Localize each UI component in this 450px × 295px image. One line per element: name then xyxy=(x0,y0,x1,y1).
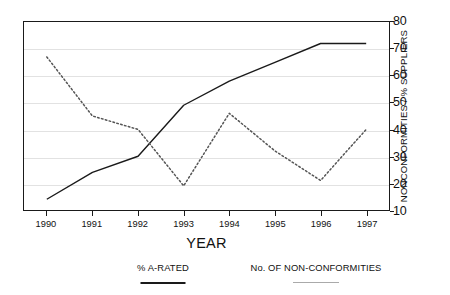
series-layer xyxy=(24,22,389,210)
dotted-line-icon xyxy=(294,282,339,283)
solid-line-icon xyxy=(141,282,186,284)
y-axis-title-label: NONCONFORMITIES / % SUPPLIERS xyxy=(398,18,409,214)
x-tick-mark xyxy=(184,211,185,216)
x-axis-title: YEAR xyxy=(23,235,390,251)
x-tick-mark xyxy=(229,211,230,216)
x-tick-label: 1996 xyxy=(301,219,341,229)
x-tick-label: 1995 xyxy=(255,219,295,229)
x-tick-mark xyxy=(367,211,368,216)
series-line-a-rated xyxy=(47,43,366,199)
x-tick-label: 1993 xyxy=(164,219,204,229)
legend-swatch-dotted xyxy=(200,282,432,285)
legend-entry-non-conformities: No. OF NON-CONFORMITIES xyxy=(200,262,432,285)
x-tick-mark xyxy=(275,211,276,216)
x-tick-mark xyxy=(321,211,322,216)
y-axis-title: NONCONFORMITIES / % SUPPLIERS xyxy=(398,0,412,18)
legend-label-non-conformities: No. OF NON-CONFORMITIES xyxy=(200,262,432,273)
x-tick-label: 1991 xyxy=(72,219,112,229)
x-tick-label: 1997 xyxy=(347,219,387,229)
x-tick-label: 1994 xyxy=(209,219,249,229)
plot-area xyxy=(23,21,390,211)
series-line-non-conformities xyxy=(47,57,366,186)
x-tick-mark xyxy=(92,211,93,216)
x-tick-mark xyxy=(138,211,139,216)
x-tick-label: 1992 xyxy=(118,219,158,229)
x-tick-mark xyxy=(46,211,47,216)
line-chart-figure: 8070605040302010 NONCONFORMITIES / % SUP… xyxy=(0,0,450,295)
chart-legend: % A-RATED No. OF NON-CONFORMITIES xyxy=(0,262,450,295)
x-tick-label: 1990 xyxy=(26,219,66,229)
